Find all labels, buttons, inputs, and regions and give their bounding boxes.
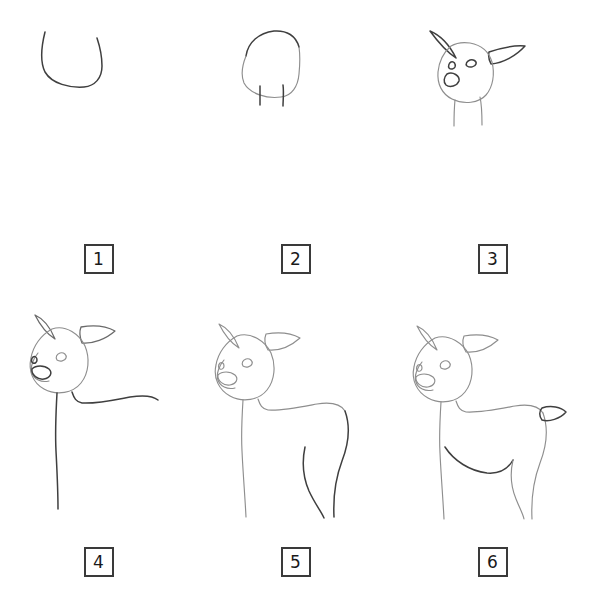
step-number-box-5: 5 (281, 547, 311, 577)
step-number-box-1: 1 (84, 244, 114, 274)
step-number-1: 1 (93, 251, 104, 268)
step-panel-1: 1 (0, 0, 197, 301)
step-number-box-3: 3 (478, 244, 508, 274)
step-1-drawing (0, 0, 197, 255)
step-panel-5: 5 (197, 301, 394, 602)
step-panel-6: 6 (394, 301, 591, 602)
step-panel-3: 3 (394, 0, 591, 301)
step-5-drawing (197, 301, 394, 556)
step-number-6: 6 (487, 554, 498, 571)
step-number-box-2: 2 (281, 244, 311, 274)
step-number-4: 4 (93, 554, 104, 571)
step-number-box-6: 6 (478, 547, 508, 577)
step-number-5: 5 (290, 554, 301, 571)
step-3-drawing (394, 0, 591, 255)
step-6-drawing (394, 301, 591, 556)
step-4-drawing (0, 301, 197, 556)
drawing-tutorial-sheet: 1 2 (0, 0, 591, 603)
step-panel-4: 4 (0, 301, 197, 602)
step-number-2: 2 (290, 251, 301, 268)
step-panel-2: 2 (197, 0, 394, 301)
step-number-3: 3 (487, 251, 498, 268)
step-2-drawing (197, 0, 394, 255)
step-number-box-4: 4 (84, 547, 114, 577)
